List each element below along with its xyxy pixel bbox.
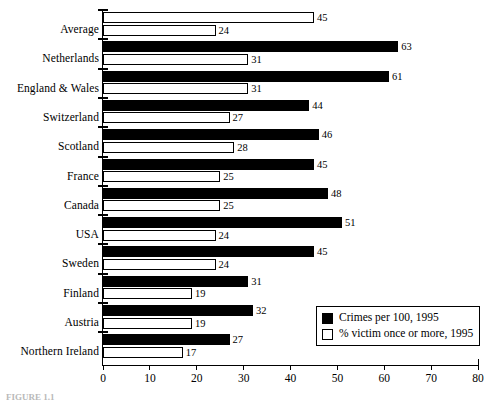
y-axis-group-tick <box>98 156 108 158</box>
bar-sweden-series-1 <box>103 246 314 257</box>
bar-average-series-2 <box>103 25 216 36</box>
bar-england-wales-series-1 <box>103 71 389 82</box>
x-axis-tick-label: 40 <box>285 372 297 384</box>
bar-value-label: 24 <box>219 231 230 242</box>
legend-swatch-solid <box>322 313 333 324</box>
x-axis-tick-label: 50 <box>332 372 344 384</box>
bar-value-label: 61 <box>392 72 403 83</box>
bar-value-label: 46 <box>322 130 333 141</box>
bar-value-label: 19 <box>195 319 206 330</box>
x-axis-tick-label: 0 <box>100 372 106 384</box>
y-axis-group-tick <box>98 97 108 99</box>
bar-finland-series-1 <box>103 276 248 287</box>
bar-switzerland-series-2 <box>103 112 230 123</box>
x-axis-tick <box>478 365 479 370</box>
x-axis-tick <box>337 365 338 370</box>
bar-england-wales-series-2 <box>103 83 248 94</box>
bar-scotland-series-1 <box>103 129 319 140</box>
bar-value-label: 51 <box>345 218 356 229</box>
legend-row: % victim once or more, 1995 <box>322 327 473 341</box>
bar-canada-series-2 <box>103 200 220 211</box>
bar-scotland-series-2 <box>103 142 234 153</box>
bar-france-series-1 <box>103 159 314 170</box>
y-axis-group-tick <box>98 273 108 275</box>
x-axis-tick <box>103 365 104 370</box>
bar-value-label: 63 <box>401 42 412 53</box>
bar-value-label: 48 <box>331 189 342 200</box>
category-label-northern-ireland: Northern Ireland <box>0 346 99 358</box>
x-axis-tick-label: 80 <box>472 372 484 384</box>
bar-value-label: 24 <box>219 26 230 37</box>
category-label-england-wales: England & Wales <box>0 83 99 95</box>
bar-value-label: 17 <box>186 348 197 359</box>
bar-northern-ireland-series-2 <box>103 347 183 358</box>
x-axis-tick-label: 10 <box>144 372 156 384</box>
x-axis-tick-label: 60 <box>379 372 391 384</box>
chart-legend: Crimes per 100, 1995% victim once or mor… <box>316 306 480 346</box>
bar-france-series-2 <box>103 171 220 182</box>
y-axis-group-tick <box>98 185 108 187</box>
category-label-usa: USA <box>0 229 99 241</box>
bar-usa-series-1 <box>103 217 342 228</box>
category-label-average: Average <box>0 24 99 36</box>
bar-austria-series-2 <box>103 318 192 329</box>
bar-netherlands-series-2 <box>103 54 248 65</box>
bar-switzerland-series-1 <box>103 100 309 111</box>
bar-sweden-series-2 <box>103 259 216 270</box>
x-axis-tick <box>149 365 150 370</box>
bar-average-series-1 <box>103 12 314 23</box>
bar-value-label: 27 <box>233 113 244 124</box>
x-axis-tick-label: 20 <box>191 372 203 384</box>
category-axis-labels: AverageNetherlandsEngland & WalesSwitzer… <box>0 0 99 365</box>
y-axis-group-tick <box>98 68 108 70</box>
category-label-france: France <box>0 171 99 183</box>
category-label-austria: Austria <box>0 317 99 329</box>
bar-value-label: 31 <box>251 55 262 66</box>
legend-label: Crimes per 100, 1995 <box>339 312 439 324</box>
x-axis-tick <box>384 365 385 370</box>
y-axis-group-tick <box>98 331 108 333</box>
bar-austria-series-1 <box>103 305 253 316</box>
bar-chart: AverageNetherlandsEngland & WalesSwitzer… <box>0 0 494 400</box>
category-label-switzerland: Switzerland <box>0 112 99 124</box>
bar-value-label: 31 <box>251 277 262 288</box>
category-label-canada: Canada <box>0 200 99 212</box>
category-label-scotland: Scotland <box>0 141 99 153</box>
x-axis-tick <box>290 365 291 370</box>
bar-value-label: 24 <box>219 260 230 271</box>
x-axis-tick <box>431 365 432 370</box>
legend-label: % victim once or more, 1995 <box>339 328 473 340</box>
y-axis-group-tick <box>98 9 108 11</box>
bar-value-label: 45 <box>317 247 328 258</box>
y-axis-group-tick <box>98 302 108 304</box>
bar-usa-series-2 <box>103 230 216 241</box>
x-axis-tick-label: 70 <box>425 372 437 384</box>
bar-northern-ireland-series-1 <box>103 334 230 345</box>
bar-value-label: 27 <box>233 335 244 346</box>
y-axis-group-tick <box>98 126 108 128</box>
bar-canada-series-1 <box>103 188 328 199</box>
bar-value-label: 32 <box>256 306 267 317</box>
x-axis-tick <box>196 365 197 370</box>
y-axis-group-tick <box>98 243 108 245</box>
bar-finland-series-2 <box>103 288 192 299</box>
y-axis-group-tick <box>98 214 108 216</box>
bar-netherlands-series-1 <box>103 41 398 52</box>
bar-value-label: 45 <box>317 13 328 24</box>
bar-value-label: 28 <box>237 143 248 154</box>
bar-value-label: 25 <box>223 172 234 183</box>
bar-value-label: 45 <box>317 160 328 171</box>
x-axis-tick <box>243 365 244 370</box>
category-label-sweden: Sweden <box>0 258 99 270</box>
bar-value-label: 31 <box>251 84 262 95</box>
bar-value-label: 19 <box>195 289 206 300</box>
legend-row: Crimes per 100, 1995 <box>322 311 473 325</box>
figure-caption: FIGURE 1.1 <box>6 392 55 400</box>
category-label-finland: Finland <box>0 288 99 300</box>
category-label-netherlands: Netherlands <box>0 53 99 65</box>
legend-swatch-hollow <box>322 329 333 340</box>
bar-value-label: 44 <box>312 101 323 112</box>
x-axis-tick-label: 30 <box>238 372 250 384</box>
y-axis-group-tick <box>98 38 108 40</box>
bar-value-label: 25 <box>223 201 234 212</box>
